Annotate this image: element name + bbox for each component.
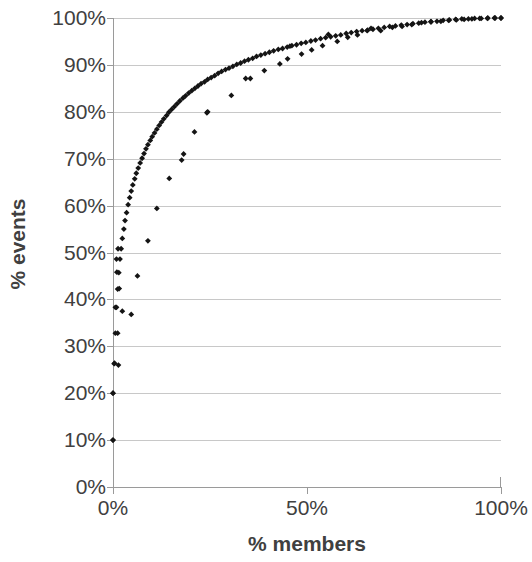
plot-svg [113, 18, 501, 487]
data-point-marker [114, 256, 120, 262]
data-point-marker [348, 30, 354, 36]
data-point-marker [145, 238, 151, 244]
x-axis-title: % members [113, 532, 501, 556]
data-point-marker [298, 40, 304, 46]
data-point-marker [299, 51, 305, 57]
data-point-marker [313, 37, 319, 43]
data-point-marker [121, 226, 127, 232]
data-point-marker [498, 15, 504, 21]
data-point-marker [228, 92, 234, 98]
y-tick-label: 0% [32, 475, 106, 499]
data-point-marker [130, 182, 136, 188]
axis-lines [107, 18, 502, 494]
data-point-marker [179, 157, 185, 163]
data-point-marker [124, 210, 130, 216]
data-point-marker [122, 218, 128, 224]
data-point-marker [294, 42, 300, 48]
y-tick-label: 80% [32, 100, 106, 124]
series-sparse-series [110, 15, 504, 443]
data-point-marker [275, 47, 281, 53]
data-point-marker [309, 47, 315, 53]
data-point-marker [181, 151, 187, 157]
data-point-marker [110, 390, 116, 396]
y-tick-label: 90% [32, 53, 106, 77]
data-point-marker [119, 236, 125, 242]
data-point-marker [128, 188, 134, 194]
data-point-marker [166, 175, 172, 181]
data-point-marker [485, 16, 491, 22]
x-tick-label: 50% [286, 496, 328, 520]
y-tick-label: 60% [32, 194, 106, 218]
data-series [110, 15, 504, 443]
data-point-marker [333, 33, 339, 39]
data-point-marker [334, 39, 340, 45]
data-point-marker [128, 312, 134, 318]
data-point-marker [119, 308, 125, 314]
y-tick-label: 10% [32, 428, 106, 452]
y-tick-label: 100% [32, 6, 106, 30]
y-tick-label: 30% [32, 334, 106, 358]
data-point-marker [135, 273, 141, 279]
data-point-marker [115, 246, 121, 252]
x-tick-label: 100% [474, 496, 528, 520]
data-point-marker [247, 76, 253, 82]
y-tick-label: 40% [32, 287, 106, 311]
y-tick-label: 70% [32, 147, 106, 171]
data-point-marker [110, 437, 116, 443]
data-point-marker [132, 176, 138, 182]
data-point-marker [303, 39, 309, 45]
plot-area [113, 18, 501, 487]
data-point-marker [127, 195, 133, 201]
x-tick-label: 0% [98, 496, 128, 520]
data-point-marker [192, 129, 198, 135]
data-point-marker [492, 15, 498, 21]
y-axis-title-text: % events [6, 198, 30, 289]
y-axis-tick-labels: 0%10%20%30%40%50%60%70%80%90%100% [30, 0, 106, 562]
data-point-marker [308, 38, 314, 44]
gridlines [113, 19, 501, 488]
data-point-marker [428, 19, 434, 25]
y-tick-label: 20% [32, 381, 106, 405]
data-point-marker [320, 43, 326, 49]
data-point-marker [133, 170, 139, 176]
y-tick-label: 50% [32, 241, 106, 265]
data-point-marker [359, 28, 365, 34]
chart-container: % events 0%10%20%30%40%50%60%70%80%90%10… [0, 0, 532, 562]
data-point-marker [135, 165, 141, 171]
data-point-marker [261, 68, 267, 74]
data-point-marker [318, 36, 324, 42]
data-point-marker [338, 32, 344, 38]
series-dense-series [110, 15, 504, 443]
data-point-marker [285, 56, 291, 62]
data-point-marker [280, 46, 286, 52]
